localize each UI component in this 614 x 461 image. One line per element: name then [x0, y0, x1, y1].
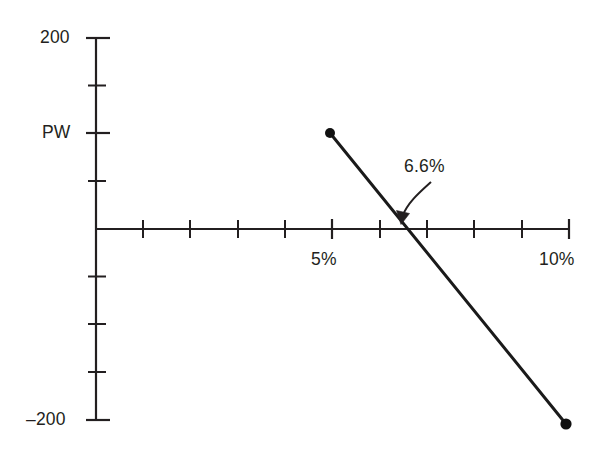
y-axis-label-200: 200 [40, 29, 70, 47]
plot-area [0, 0, 614, 461]
series-line-pw [330, 133, 566, 424]
pw-vs-interest-rate-chart: 200 PW –200 5% 10% 6.6% [0, 0, 614, 461]
x-axis-label-10-percent: 10% [539, 251, 575, 269]
annotation-arrowhead [397, 211, 410, 225]
y-axis-label-minus-200: –200 [26, 411, 66, 429]
x-axis-label-5-percent: 5% [311, 251, 337, 269]
data-point-5-percent [325, 128, 335, 138]
annotation-arrow-curve [403, 182, 432, 216]
data-point-10-percent [560, 418, 571, 429]
y-axis-label-pw: PW [42, 124, 71, 142]
annotation-label-irr: 6.6% [404, 158, 445, 176]
